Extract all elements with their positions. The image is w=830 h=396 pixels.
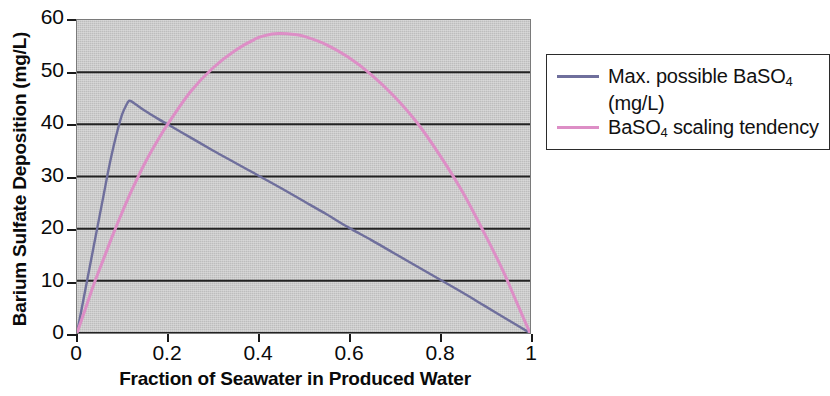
y-tick-label: 20: [18, 215, 64, 239]
series-line: [77, 34, 530, 333]
x-tick-mark: [167, 334, 169, 342]
x-tick-mark: [349, 334, 351, 342]
x-tick-mark: [258, 334, 260, 342]
y-tick-mark: [67, 72, 76, 74]
chart-legend: Max. possible BaSO4(mg/L) BaSO4 scaling …: [546, 54, 830, 150]
y-tick-mark: [67, 124, 76, 126]
x-tick-label: 0.8: [410, 341, 470, 365]
x-tick-mark: [440, 334, 442, 342]
legend-color-swatch: [557, 75, 599, 78]
legend-subscript: 4: [786, 74, 793, 89]
y-tick-label: 30: [18, 163, 64, 187]
y-tick-mark: [67, 229, 76, 231]
plot-area: [76, 19, 531, 334]
x-tick-mark: [531, 334, 533, 342]
legend-color-swatch: [557, 126, 599, 129]
y-tick-label: 50: [18, 58, 64, 82]
y-tick-mark: [67, 334, 76, 336]
x-tick-label: 0.6: [319, 341, 379, 365]
x-tick-label: 1: [501, 341, 561, 365]
x-tick-label: 0: [46, 341, 106, 365]
y-tick-mark: [67, 19, 76, 21]
x-tick-label: 0.4: [228, 341, 288, 365]
y-tick-mark: [67, 177, 76, 179]
y-tick-label: 10: [18, 268, 64, 292]
x-tick-label: 0.2: [137, 341, 197, 365]
legend-entry-label: Max. possible BaSO4(mg/L): [608, 64, 793, 116]
y-tick-mark: [67, 282, 76, 284]
legend-subscript: 4: [661, 125, 668, 140]
legend-entry-max-possible-baso4: Max. possible BaSO4(mg/L): [557, 64, 793, 116]
legend-entry-label: BaSO4 scaling tendency: [608, 115, 819, 142]
plot-canvas: [77, 20, 530, 333]
x-axis-title: Fraction of Seawater in Produced Water: [50, 368, 540, 390]
x-tick-mark: [76, 334, 78, 342]
legend-entry-baso4-scaling-tendency: BaSO4 scaling tendency: [557, 115, 819, 142]
y-tick-label: 40: [18, 110, 64, 134]
y-tick-label: 60: [18, 5, 64, 29]
series-line: [77, 101, 530, 333]
